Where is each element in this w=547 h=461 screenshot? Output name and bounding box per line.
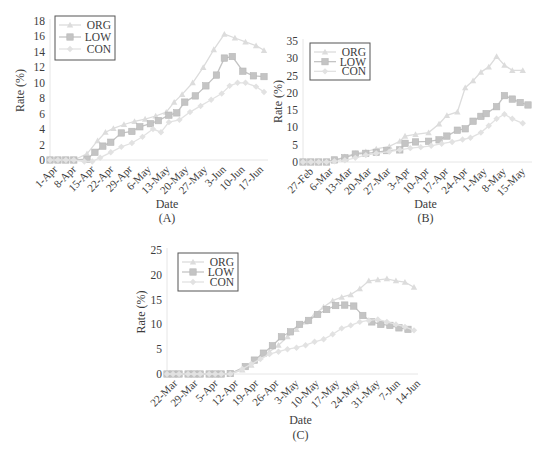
- x-axis: 1-Apr8-Apr15-Apr22-Apr29-Apr6-May13-May2…: [32, 163, 265, 196]
- data-marker: [174, 110, 180, 116]
- series-line: [167, 279, 414, 374]
- data-marker: [305, 317, 311, 323]
- data-marker: [269, 343, 275, 349]
- series-line: [303, 114, 523, 162]
- data-marker: [221, 55, 227, 61]
- data-marker: [100, 143, 106, 149]
- y-tick-label: 5: [292, 139, 298, 151]
- data-marker: [92, 149, 98, 155]
- y-tick-label: 0: [292, 156, 298, 168]
- data-marker: [342, 302, 348, 308]
- data-marker: [155, 117, 161, 123]
- chart-caption: (B): [418, 211, 434, 225]
- y-tick-label: 0: [156, 368, 162, 380]
- data-marker: [483, 110, 489, 116]
- data-marker: [302, 342, 308, 348]
- data-marker: [108, 139, 114, 145]
- data-marker: [147, 121, 153, 127]
- data-marker: [108, 149, 114, 155]
- data-marker: [411, 284, 417, 290]
- line-chart-c: 0510152025Rate (%)22-Mar29-Mar5-Apr12-Ap…: [130, 232, 430, 461]
- data-marker: [208, 97, 214, 103]
- y-tick-label: 35: [287, 35, 299, 47]
- data-marker: [260, 350, 266, 356]
- legend-entry-con: CON: [210, 276, 235, 288]
- data-marker: [520, 120, 526, 126]
- y-tick-label: 30: [287, 52, 299, 64]
- data-marker: [348, 322, 354, 328]
- data-marker: [102, 129, 108, 135]
- data-marker: [200, 64, 206, 70]
- data-marker: [287, 329, 293, 335]
- data-marker: [412, 139, 418, 145]
- data-marker: [501, 92, 507, 98]
- data-marker: [360, 312, 366, 318]
- y-tick-label: 25: [287, 70, 299, 82]
- data-marker: [242, 80, 248, 86]
- data-marker: [311, 339, 317, 345]
- data-marker: [118, 144, 124, 150]
- chart-panel-a: 024681012141618Rate (%)1-Apr8-Apr15-Apr2…: [0, 0, 270, 225]
- data-marker: [266, 351, 272, 357]
- data-marker: [449, 139, 455, 145]
- data-marker: [137, 124, 143, 130]
- data-marker: [501, 111, 507, 117]
- y-axis-label: Rate (%): [13, 69, 27, 112]
- data-marker: [454, 109, 460, 115]
- data-marker: [229, 53, 235, 59]
- chart-panel-c: 0510152025Rate (%)22-Mar29-Mar5-Apr12-Ap…: [130, 232, 430, 461]
- data-marker: [509, 96, 515, 102]
- data-marker: [203, 83, 209, 89]
- y-axis-label: Rate (%): [134, 291, 148, 334]
- legend-entry-con: CON: [87, 43, 112, 55]
- x-axis-label: Date: [414, 197, 437, 211]
- chart-caption: (A): [159, 211, 176, 225]
- x-axis: 27-Feb6-Mar13-Mar20-Mar27-Mar3-Apr10-Apr…: [285, 165, 528, 198]
- data-marker: [293, 345, 299, 351]
- data-marker: [284, 346, 290, 352]
- y-tick-label: 10: [34, 77, 46, 89]
- data-marker: [67, 34, 73, 40]
- series-line: [50, 57, 264, 161]
- data-marker: [378, 321, 384, 327]
- data-marker: [467, 135, 473, 141]
- data-marker: [351, 303, 357, 309]
- data-marker: [493, 53, 499, 59]
- y-tick-label: 15: [287, 104, 299, 116]
- data-marker: [129, 140, 135, 146]
- data-marker: [332, 302, 338, 308]
- series-low: [164, 302, 411, 377]
- legend-entry-low: LOW: [85, 31, 111, 43]
- y-tick-label: 10: [287, 121, 299, 133]
- y-tick-label: 0: [39, 154, 45, 166]
- series-line: [167, 305, 408, 374]
- data-marker: [357, 319, 363, 325]
- data-marker: [402, 140, 408, 146]
- data-marker: [444, 133, 450, 139]
- data-marker: [459, 136, 465, 142]
- series-low: [300, 92, 531, 165]
- data-marker: [296, 321, 302, 327]
- data-marker: [509, 116, 515, 122]
- data-marker: [275, 348, 281, 354]
- legend-entry-org: ORG: [87, 19, 111, 31]
- data-marker: [240, 68, 246, 74]
- chart-caption: (C): [293, 428, 309, 442]
- data-marker: [320, 336, 326, 342]
- y-tick-label: 14: [34, 46, 46, 58]
- data-marker: [190, 269, 196, 275]
- y-tick-label: 18: [34, 15, 46, 27]
- y-axis: 024681012141618: [34, 15, 46, 166]
- data-marker: [493, 103, 499, 109]
- y-tick-label: 5: [156, 343, 162, 355]
- x-axis: 22-Mar29-Mar5-Apr12-Apr19-Apr26-Apr3-May…: [148, 377, 423, 410]
- y-tick-label: 2: [39, 139, 45, 151]
- data-marker: [314, 311, 320, 317]
- data-marker: [323, 306, 329, 312]
- data-marker: [197, 103, 203, 109]
- series-low: [47, 53, 267, 163]
- data-marker: [348, 291, 354, 297]
- data-marker: [261, 73, 267, 79]
- legend: ORGLOWCON: [310, 43, 370, 80]
- y-axis-label: Rate (%): [271, 80, 285, 123]
